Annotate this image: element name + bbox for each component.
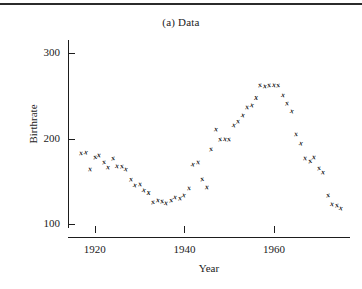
y-tick-label: 100 [26,217,60,229]
scatter-plot: 100200300 192019401960 xxxxxxxxxxxxxxxxx… [0,0,362,289]
data-point-marker: x [150,198,155,206]
data-point-marker: x [294,130,298,138]
y-tick-mark [68,224,75,225]
data-point-marker: x [138,180,142,188]
data-point-marker: x [147,190,151,198]
data-point-marker: x [285,99,289,107]
y-tick-mark [68,53,75,54]
data-point-marker: x [240,111,245,119]
data-point-marker: x [129,175,133,183]
data-point-marker: x [196,159,200,167]
data-point-marker: x [115,162,119,170]
data-point-marker: x [124,165,129,173]
data-point-marker: x [187,184,191,192]
data-point-marker: x [209,145,214,153]
y-axis-line [68,40,69,228]
y-tick-label: 300 [26,46,60,58]
data-point-marker: x [330,200,334,208]
data-point-marker: x [227,135,232,143]
data-point-marker: x [164,199,168,207]
data-point-marker: x [298,139,303,147]
data-point-marker: x [276,81,281,89]
data-point-marker: x [205,184,209,192]
data-point-marker: x [182,191,187,199]
data-point-marker: x [321,168,325,176]
data-point-marker: x [133,181,138,189]
x-tick-label: 1920 [75,243,115,255]
x-axis-label: Year [68,262,350,274]
x-tick-label: 1940 [164,243,204,255]
data-point-marker: x [214,125,218,133]
data-point-marker: x [312,154,316,162]
data-point-marker: x [245,103,249,111]
x-axis-line [68,237,350,238]
data-point-marker: x [289,107,294,115]
figure-panel: (a) Data 100200300 192019401960 xxxxxxxx… [0,0,362,289]
data-point-marker: x [83,148,88,156]
y-axis-label: Birthrate [27,79,39,169]
data-point-marker: x [110,154,115,162]
data-point-marker: x [106,163,110,171]
data-point-marker: x [88,166,92,174]
data-point-marker: x [200,175,205,183]
x-tick-mark [184,226,185,233]
data-point-marker: x [339,204,344,212]
x-tick-label: 1960 [254,243,294,255]
x-tick-mark [95,226,96,233]
x-tick-mark [274,226,275,233]
data-point-marker: x [191,160,196,168]
y-tick-mark [68,139,75,140]
data-point-marker: x [254,94,258,102]
data-point-marker: x [325,191,330,199]
